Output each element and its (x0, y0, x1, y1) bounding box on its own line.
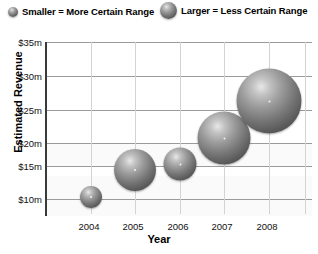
bubble-center-marker (90, 196, 92, 198)
x-tick-label: 2007 (211, 221, 232, 232)
x-tick-label: 2005 (122, 221, 143, 232)
legend-item-larger: Larger = Less Certain Range (160, 2, 307, 19)
bubble-chart: Smaller = More Certain Range Larger = Le… (0, 0, 318, 254)
plot-area (45, 42, 312, 216)
x-tick-label: 2008 (256, 221, 277, 232)
data-bubble-2006[interactable] (164, 148, 197, 181)
large-sphere-icon (160, 2, 177, 19)
data-bubble-2008[interactable] (237, 69, 302, 134)
bubble-center-marker (223, 137, 225, 139)
y-axis-title: Estimated Revenue (12, 51, 24, 152)
data-bubble-2004[interactable] (80, 186, 102, 208)
chart-legend: Smaller = More Certain Range Larger = Le… (0, 0, 318, 30)
data-bubble-2005[interactable] (114, 149, 156, 191)
x-axis-title: Year (0, 233, 318, 245)
legend-item-larger-label: Larger = Less Certain Range (181, 5, 307, 16)
y-tick-label: $10m (18, 194, 42, 205)
x-tick-label: 2004 (78, 221, 99, 232)
bubble-center-marker (268, 100, 270, 102)
gridline-vertical (180, 42, 181, 214)
y-axis-title-wrapper: Estimated Revenue (8, 22, 26, 182)
gridline-vertical (305, 42, 306, 214)
x-tick-label: 2006 (167, 221, 188, 232)
bubble-center-marker (179, 163, 181, 165)
bubble-center-marker (134, 169, 136, 171)
